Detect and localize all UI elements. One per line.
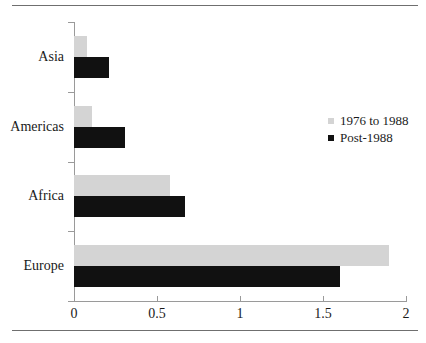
bar-row (74, 196, 406, 217)
x-tick-label: 0 (54, 306, 94, 322)
bar-row (74, 175, 406, 196)
category-label-asia: Asia (0, 50, 64, 64)
bar-row (74, 57, 406, 78)
x-tick-label: 1 (220, 306, 260, 322)
bar-group (74, 22, 406, 92)
category-label-europe: Europe (0, 259, 64, 273)
bar-asia-series0 (74, 36, 87, 57)
bar-row (74, 36, 406, 57)
category-label-americas: Americas (0, 120, 64, 134)
legend-label: 1976 to 1988 (340, 113, 409, 128)
x-tick-label: 1.5 (303, 306, 343, 322)
x-tick-label: 2 (386, 306, 426, 322)
bar-americas-series1 (74, 127, 125, 148)
bar-group (74, 162, 406, 232)
bar-group (74, 231, 406, 301)
legend-item: Post-1988 (328, 129, 409, 146)
x-tick-label: 0.5 (137, 306, 177, 322)
category-label-africa: Africa (0, 189, 64, 203)
bar-row (74, 266, 406, 287)
legend-item: 1976 to 1988 (328, 112, 409, 129)
bar-africa-series1 (74, 196, 185, 217)
bar-europe-series0 (74, 245, 389, 266)
chart-figure: AsiaAmericasAfricaEurope 00.511.52 1976 … (0, 0, 426, 343)
bar-row (74, 245, 406, 266)
bottom-rule (12, 330, 418, 331)
bar-europe-series1 (74, 266, 340, 287)
x-tick (406, 296, 407, 302)
bar-africa-series0 (74, 175, 170, 196)
square-marker-light-icon (328, 118, 334, 124)
chart-legend: 1976 to 1988Post-1988 (328, 112, 409, 146)
bar-asia-series1 (74, 57, 109, 78)
bar-americas-series0 (74, 106, 92, 127)
plot-area (74, 22, 406, 301)
top-rule (12, 5, 418, 6)
legend-label: Post-1988 (340, 130, 393, 145)
square-marker-dark-icon (328, 135, 334, 141)
